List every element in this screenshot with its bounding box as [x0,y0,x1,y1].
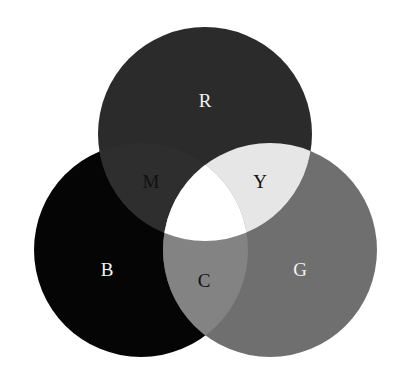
label-cyan: C [198,270,211,291]
label-green: G [293,259,307,280]
label-blue: B [101,259,114,280]
label-magenta: M [143,171,160,192]
label-yellow: Y [253,171,267,192]
color-venn-diagram: R M Y B C G [0,0,411,389]
label-red: R [199,90,212,111]
